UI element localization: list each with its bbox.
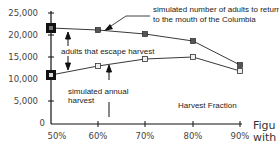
- return-annotation-line1: simulated number of adults to return: [153, 5, 279, 14]
- y-tick-label: 0: [40, 118, 45, 128]
- x-tick-label: 90%: [231, 131, 250, 141]
- figure-caption-fragment: with: [253, 131, 276, 144]
- x-tick-label: 70%: [136, 131, 155, 141]
- y-tick-label: 20,000: [8, 30, 38, 40]
- harvest-annotation-line2: harvest: [68, 96, 95, 105]
- harvest-annotation-line1: simulated annual: [68, 87, 129, 96]
- y-tick-label: 10,000: [8, 74, 38, 84]
- harvest-series-markers: [46, 55, 243, 81]
- x-tick-label: 60%: [89, 131, 108, 141]
- x-axis-label: Harvest Fraction: [178, 101, 237, 110]
- y-tick-label: 25,000: [8, 8, 38, 18]
- y-tick-label: 15,000: [8, 52, 38, 62]
- return-annotation-arrow: [104, 16, 150, 31]
- escape-annotation: adults that escape harvest: [61, 47, 155, 56]
- chart: 25,000 20,000 15,000 10,000 5,000 0 50% …: [0, 0, 279, 148]
- y-tick-label: 5,000: [14, 96, 38, 106]
- return-annotation-line2: to the mouth of the Columbia: [153, 15, 256, 24]
- x-tick-label: 50%: [48, 131, 67, 141]
- x-tick-label: 80%: [184, 131, 203, 141]
